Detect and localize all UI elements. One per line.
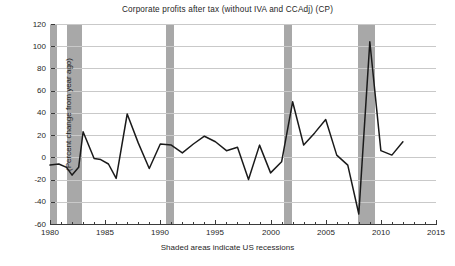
x-axis-line [50, 224, 437, 225]
y-tick-label: 20 [20, 131, 46, 140]
x-tick-minor-mark [359, 222, 360, 224]
x-tick-minor-mark [193, 222, 194, 224]
y-tick-mark [51, 91, 55, 92]
x-tick-minor-mark [370, 222, 371, 224]
x-axis-label: Shaded areas indicate US recessions [0, 243, 455, 252]
x-tick-minor-mark [304, 222, 305, 224]
x-tick-mark [160, 220, 161, 224]
x-tick-label: 1980 [30, 228, 70, 237]
x-tick-minor-mark [149, 222, 150, 224]
chart-title: Corporate profits after tax (without IVA… [0, 5, 455, 14]
x-tick-minor-mark [127, 222, 128, 224]
y-tick-mark [51, 46, 55, 47]
y-tick-label: 40 [20, 108, 46, 117]
x-tick-minor-mark [182, 222, 183, 224]
x-tick-label: 2005 [306, 228, 346, 237]
x-tick-label: 2010 [361, 228, 401, 237]
x-tick-label: 2000 [251, 228, 291, 237]
x-tick-minor-mark [72, 222, 73, 224]
x-tick-minor-mark [260, 222, 261, 224]
y-tick-label: 100 [20, 42, 46, 51]
x-tick-mark [50, 220, 51, 224]
y-tick-label: 60 [20, 86, 46, 95]
chart-figure: Corporate profits after tax (without IVA… [0, 0, 455, 266]
y-tick-label: -40 [20, 197, 46, 206]
y-tick-mark [51, 113, 55, 114]
x-tick-mark [215, 220, 216, 224]
x-tick-mark [105, 220, 106, 224]
x-tick-minor-mark [61, 222, 62, 224]
y-tick-label: 120 [20, 20, 46, 29]
x-tick-label: 2015 [416, 228, 455, 237]
x-tick-minor-mark [293, 222, 294, 224]
x-tick-minor-mark [337, 222, 338, 224]
x-tick-minor-mark [83, 222, 84, 224]
x-tick-minor-mark [403, 222, 404, 224]
x-tick-mark [271, 220, 272, 224]
x-tick-mark [326, 220, 327, 224]
x-tick-label: 1990 [140, 228, 180, 237]
plot-area [50, 24, 436, 224]
series-line [50, 42, 403, 214]
x-tick-minor-mark [249, 222, 250, 224]
x-tick-minor-mark [94, 222, 95, 224]
y-tick-mark [51, 24, 55, 25]
x-tick-label: 1985 [85, 228, 125, 237]
y-tick-label: 80 [20, 64, 46, 73]
x-tick-minor-mark [392, 222, 393, 224]
x-tick-minor-mark [282, 222, 283, 224]
y-tick-mark [51, 157, 55, 158]
y-tick-mark [51, 135, 55, 136]
x-tick-minor-mark [315, 222, 316, 224]
x-tick-minor-mark [425, 222, 426, 224]
x-tick-minor-mark [414, 222, 415, 224]
x-tick-minor-mark [116, 222, 117, 224]
x-tick-mark [381, 220, 382, 224]
y-tick-label: 0 [20, 153, 46, 162]
x-tick-minor-mark [226, 222, 227, 224]
data-series-layer [50, 24, 436, 224]
y-tick-mark [51, 180, 55, 181]
x-tick-minor-mark [138, 222, 139, 224]
x-tick-mark [436, 220, 437, 224]
x-tick-minor-mark [348, 222, 349, 224]
y-tick-mark [51, 68, 55, 69]
x-tick-label: 1995 [195, 228, 235, 237]
y-tick-mark [51, 202, 55, 203]
y-tick-label: -20 [20, 175, 46, 184]
x-tick-minor-mark [204, 222, 205, 224]
x-tick-minor-mark [237, 222, 238, 224]
y-tick-mark [51, 224, 55, 225]
x-tick-minor-mark [171, 222, 172, 224]
